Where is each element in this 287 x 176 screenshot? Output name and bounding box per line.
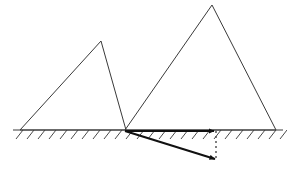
hatch-mark bbox=[38, 130, 45, 139]
right-triangle bbox=[125, 5, 276, 130]
hatch-mark bbox=[269, 130, 276, 139]
diagonal-arrow bbox=[125, 131, 215, 159]
hatch-mark bbox=[82, 130, 89, 139]
hatch-mark bbox=[258, 130, 265, 139]
hatch-mark bbox=[93, 130, 100, 139]
hatch-mark bbox=[49, 130, 56, 139]
hatch-mark bbox=[236, 130, 243, 139]
diagram-svg bbox=[0, 0, 287, 176]
hatch-mark bbox=[115, 130, 122, 139]
hatch-mark bbox=[104, 130, 111, 139]
vector-arrows bbox=[125, 131, 215, 159]
hatch-mark bbox=[71, 130, 78, 139]
hatch-mark bbox=[60, 130, 67, 139]
triangle-shapes bbox=[20, 5, 276, 130]
hatch-mark bbox=[280, 130, 287, 139]
hatch-mark bbox=[247, 130, 254, 139]
hatch-mark bbox=[16, 130, 23, 139]
hatch-mark bbox=[27, 130, 34, 139]
hatch-mark bbox=[225, 130, 232, 139]
diagram-canvas bbox=[0, 0, 287, 176]
left-triangle bbox=[20, 41, 126, 130]
hatch-mark bbox=[214, 130, 221, 139]
